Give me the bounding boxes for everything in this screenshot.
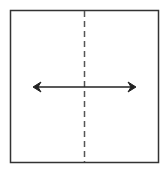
fold-diagram (0, 0, 166, 172)
